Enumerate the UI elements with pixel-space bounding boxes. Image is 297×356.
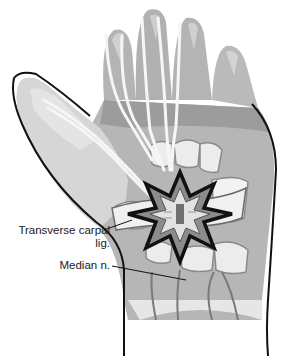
label-median-nerve: Median n. [30,259,110,272]
label-line-2: lig. [6,237,110,250]
label-transverse-carpal-ligament: Transverse carpal lig. [6,224,110,250]
hand-anatomy-illustration [0,0,297,356]
label-line-1: Median n. [30,259,110,272]
label-line-1: Transverse carpal [6,224,110,237]
